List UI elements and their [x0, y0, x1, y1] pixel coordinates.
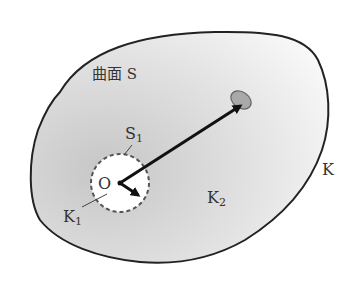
surface-s-outline — [31, 32, 329, 263]
surface-s-label: 曲面 S — [92, 65, 137, 83]
origin-point — [118, 181, 123, 186]
k-label: K — [322, 160, 335, 179]
diagram-canvas: 曲面 S S1 O K1 K2 K — [0, 0, 351, 296]
origin-label: O — [98, 174, 111, 193]
region-diagram: 曲面 S S1 O K1 K2 K — [0, 0, 351, 296]
